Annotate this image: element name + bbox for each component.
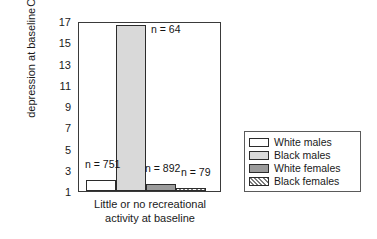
- y-axis-tick-labels: 1357911131517: [46, 22, 78, 192]
- y-axis-tick-label: 15: [46, 38, 78, 49]
- y-axis-tick-label: 5: [46, 144, 78, 155]
- bar-black-males: [116, 25, 146, 191]
- legend-item-label: White males: [274, 137, 332, 148]
- x-axis-title-line-2: activity at baseline: [60, 212, 240, 226]
- y-axis-tick-label: 9: [46, 102, 78, 113]
- legend-swatch-lightgray: [249, 151, 269, 160]
- bar-white-males: [86, 180, 116, 191]
- y-axis-title: depression at baseline Odds ratio for: [14, 0, 48, 118]
- legend-item: Black females: [249, 175, 355, 187]
- x-axis-title-line-1: Little or no recreational: [60, 198, 240, 212]
- bar-black-females: [176, 188, 206, 191]
- legend-swatch-white: [249, 138, 269, 147]
- bar-white-females: [146, 184, 176, 191]
- bar-n-label: n = 892: [145, 163, 180, 174]
- y-axis-tick-label: 13: [46, 59, 78, 70]
- legend-item-label: Black females: [274, 176, 339, 187]
- legend-item-label: White females: [274, 163, 341, 174]
- bar-n-label: n = 79: [181, 167, 211, 178]
- legend-swatch-darkgray: [249, 164, 269, 173]
- y-axis-title-line-1: Odds ratio for: [25, 0, 37, 7]
- legend-item: White females: [249, 162, 355, 174]
- y-axis-tick-label: 17: [46, 17, 78, 28]
- legend-swatch-hatch: [249, 177, 269, 186]
- legend-item: White males: [249, 136, 355, 148]
- bar-n-label: n = 64: [151, 24, 181, 35]
- y-axis-title-line-2: depression at baseline: [25, 8, 37, 118]
- y-axis-tick-label: 1: [46, 187, 78, 198]
- bar-n-label: n = 751: [85, 159, 120, 170]
- y-axis-tick-label: 11: [46, 80, 78, 91]
- legend: White malesBlack malesWhite femalesBlack…: [244, 131, 361, 192]
- x-axis-title: Little or no recreational activity at ba…: [60, 198, 240, 225]
- y-axis-tick-label: 7: [46, 123, 78, 134]
- legend-item-label: Black males: [274, 150, 331, 161]
- bar-chart-figure: depression at baseline Odds ratio for 13…: [0, 0, 377, 239]
- y-axis-tick-label: 3: [46, 165, 78, 176]
- legend-item: Black males: [249, 149, 355, 161]
